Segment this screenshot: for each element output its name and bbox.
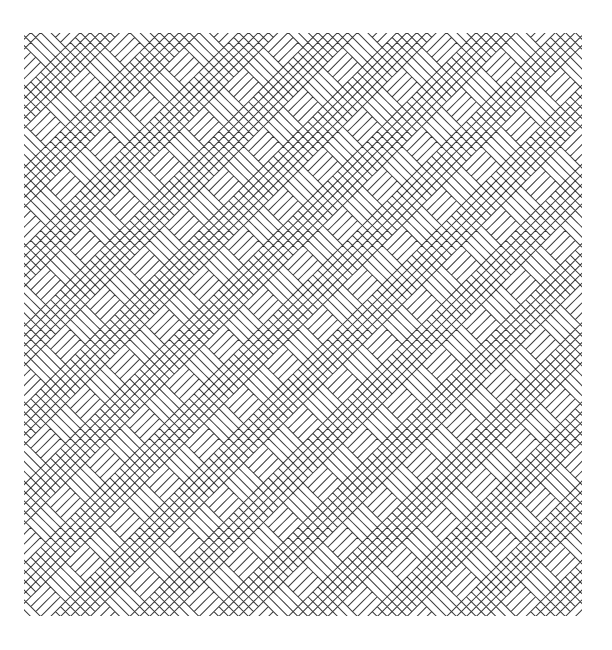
artwork-canvas: Diagonal basketweave line pattern [24,33,582,616]
basketweave-pattern-graphic [24,33,582,616]
